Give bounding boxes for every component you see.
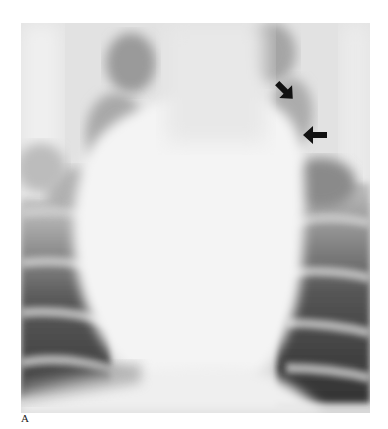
radiograph-image bbox=[21, 23, 370, 413]
annotation-arrow-down-left-icon bbox=[272, 78, 298, 104]
panel-label: A bbox=[21, 412, 29, 424]
annotation-arrow-left-icon bbox=[302, 124, 328, 146]
